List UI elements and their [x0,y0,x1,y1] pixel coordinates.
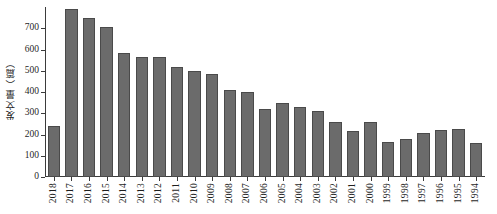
x-tick [318,177,319,181]
x-tick [388,177,389,181]
x-tick-label: 2010 [190,183,200,203]
bar [136,57,148,177]
x-tick [71,177,72,181]
x-tick-label: 1996 [436,183,446,203]
x-tick [371,177,372,181]
y-tick [41,113,45,114]
bars-container [45,7,485,177]
x-tick-label: 2018 [49,183,59,203]
plot-area: 0100200300400500600700 20182017201620152… [45,7,485,177]
x-tick-label: 2003 [313,183,323,203]
x-tick-label: 2011 [172,183,182,203]
x-tick [441,177,442,181]
bar [276,103,288,177]
bar [347,131,359,177]
y-tick [41,92,45,93]
x-tick-label: 2001 [348,183,358,203]
x-tick [300,177,301,181]
x-tick [195,177,196,181]
y-tick [41,28,45,29]
y-tick [41,50,45,51]
x-tick-label: 2000 [366,183,376,203]
x-tick-label: 1994 [471,183,481,203]
x-tick [353,177,354,181]
x-tick [459,177,460,181]
bar [312,111,324,177]
x-tick [89,177,90,181]
y-tick [41,71,45,72]
x-tick [406,177,407,181]
y-tick-label: 700 [25,23,39,33]
x-tick-label: 2008 [225,183,235,203]
x-tick [247,177,248,181]
x-tick [177,177,178,181]
x-tick-label: 2006 [260,183,270,203]
x-tick [107,177,108,181]
bar [400,139,412,177]
x-tick [230,177,231,181]
bar [65,9,77,177]
x-tick [476,177,477,181]
bar [171,67,183,178]
bar [364,122,376,177]
x-tick-label: 2015 [102,183,112,203]
x-tick [212,177,213,181]
x-tick [142,177,143,181]
x-tick-label: 2014 [119,183,129,203]
x-tick [335,177,336,181]
bar [188,71,200,177]
bar [382,142,394,177]
bar [241,92,253,177]
bar [470,143,482,177]
bar [294,107,306,177]
x-tick [283,177,284,181]
y-tick [41,135,45,136]
x-tick-label: 2012 [154,183,164,203]
x-tick [159,177,160,181]
x-tick-label: 1997 [418,183,428,203]
y-tick [41,156,45,157]
bar [435,130,447,177]
y-tick-label: 200 [25,130,39,140]
bar [329,122,341,177]
y-axis-title: 发文量（篇） [2,0,20,176]
x-tick-label: 2002 [330,183,340,203]
bar [452,129,464,177]
y-axis-title-label: 发文量（篇） [4,57,18,120]
x-tick [124,177,125,181]
bar [224,90,236,177]
bar [206,74,218,177]
x-tick-label: 2013 [137,183,147,203]
y-tick-label: 100 [25,151,39,161]
bar [259,109,271,177]
x-tick [265,177,266,181]
bar [153,57,165,177]
bar-chart: 发文量（篇） 0100200300400500600700 2018201720… [0,0,497,214]
x-tick-label: 1995 [454,183,464,203]
x-tick-label: 2009 [207,183,217,203]
x-tick-label: 2007 [242,183,252,203]
x-tick [423,177,424,181]
bar [100,27,112,177]
x-tick-label: 2016 [84,183,94,203]
x-tick-label: 2004 [295,183,305,203]
y-tick-label: 500 [25,66,39,76]
x-tick-label: 2005 [278,183,288,203]
y-tick-label: 300 [25,108,39,118]
y-tick-label: 400 [25,87,39,97]
y-tick-label: 600 [25,45,39,55]
x-tick-label: 1998 [401,183,411,203]
bar [118,53,130,177]
bar [417,133,429,177]
bar [83,18,95,177]
x-tick-label: 2017 [66,183,76,203]
x-tick-label: 1999 [383,183,393,203]
bar [48,126,60,177]
x-tick [54,177,55,181]
y-tick-label: 0 [34,172,39,182]
y-tick [41,177,45,178]
